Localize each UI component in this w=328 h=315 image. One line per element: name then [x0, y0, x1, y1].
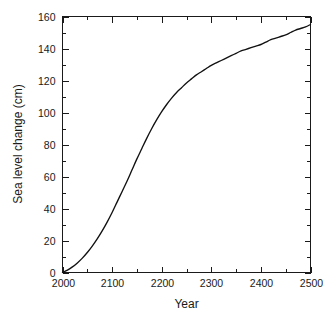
x-tick-label: 2300: [200, 277, 224, 289]
x-tick-label: 2500: [300, 277, 324, 289]
y-tick-label: 120: [38, 75, 56, 87]
y-tick-label: 40: [44, 203, 56, 215]
x-axis-title: Year: [174, 297, 198, 311]
x-tick-label: 2200: [151, 277, 175, 289]
y-tick-label: 160: [38, 11, 56, 23]
x-tick-label: 2400: [250, 277, 274, 289]
y-tick-label: 60: [44, 171, 56, 183]
y-tick-label: 80: [44, 139, 56, 151]
y-axis-title: Sea level change (cm): [11, 84, 25, 203]
x-tick-label: 2100: [101, 277, 125, 289]
chart-figure: 200021002200230024002500 020406080100120…: [0, 0, 328, 315]
y-tick-label: 20: [44, 235, 56, 247]
y-tick-label: 100: [38, 107, 56, 119]
sea-level-line-chart: 200021002200230024002500 020406080100120…: [0, 0, 328, 315]
y-tick-label: 0: [50, 267, 56, 279]
y-tick-label: 140: [38, 43, 56, 55]
